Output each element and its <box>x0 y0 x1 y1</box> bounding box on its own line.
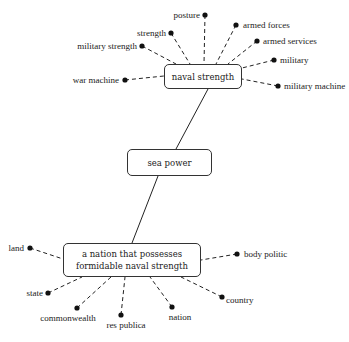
dot-country <box>219 294 224 299</box>
edge-land <box>30 248 63 259</box>
label-commonwealth: commonwealth <box>40 313 96 323</box>
dot-armed-services <box>254 38 259 43</box>
label-state: state <box>27 288 44 298</box>
node-sea-power: sea power <box>127 149 212 176</box>
label-military-machine: military machine <box>284 81 345 91</box>
label-military: military <box>280 55 309 65</box>
edge-strength <box>171 33 190 64</box>
label-armed-services: armed services <box>263 36 317 46</box>
label-military-strength: military strength <box>77 41 137 51</box>
edge-armed-forces <box>216 25 236 64</box>
label-strength: strength <box>137 28 166 38</box>
edge-posture <box>204 15 205 64</box>
edge-armed-services <box>228 41 257 64</box>
label-body-politic: body politic <box>244 249 287 259</box>
edge-state <box>48 277 82 293</box>
dot-posture <box>202 12 207 17</box>
edge-military <box>242 60 274 68</box>
concept-map-diagram: naval strength sea power a nation that p… <box>0 0 349 342</box>
label-nation: nation <box>169 312 192 322</box>
node-naval-strength-label: naval strength <box>172 71 235 83</box>
edge-res-publica <box>121 277 125 315</box>
edge-war-machine <box>125 76 164 80</box>
edge-body-politic <box>201 254 237 260</box>
dot-armed-forces <box>233 22 238 27</box>
node-nation-naval-line1: a nation that possesses <box>82 248 182 260</box>
node-naval-strength: naval strength <box>164 64 242 89</box>
dot-military-strength <box>139 43 144 48</box>
dot-military-machine <box>275 83 280 88</box>
dot-state <box>45 290 50 295</box>
label-war-machine: war machine <box>73 75 119 85</box>
node-sea-power-label: sea power <box>147 157 191 169</box>
edge-military-strength <box>142 46 176 64</box>
dot-res-publica <box>118 312 123 317</box>
dot-nation <box>169 304 174 309</box>
dot-body-politic <box>234 251 239 256</box>
edge-military-machine <box>242 79 278 86</box>
label-res-publica: res publica <box>106 320 145 330</box>
dot-strength <box>168 30 173 35</box>
edge-commonwealth <box>77 277 111 308</box>
dot-military <box>271 57 276 62</box>
node-nation-naval-line2: formidable naval strength <box>76 260 188 272</box>
edge-sea-power-to-nation <box>132 176 158 243</box>
edge-naval-strength-to-sea-power <box>176 89 208 149</box>
label-posture: posture <box>174 10 201 20</box>
edge-country <box>181 277 222 297</box>
label-armed-forces: armed forces <box>243 20 290 30</box>
edge-nation <box>150 277 172 307</box>
node-nation-naval: a nation that possesses formidable naval… <box>63 243 201 277</box>
label-country: country <box>226 295 254 305</box>
dot-commonwealth <box>74 305 79 310</box>
dot-land <box>27 245 32 250</box>
dot-war-machine <box>122 77 127 82</box>
label-land: land <box>9 243 25 253</box>
